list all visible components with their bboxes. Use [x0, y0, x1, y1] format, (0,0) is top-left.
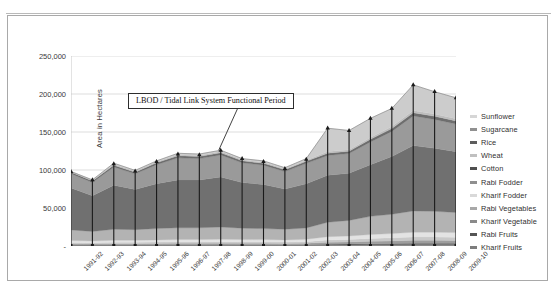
legend-item[interactable]: Rabi Fruits — [470, 228, 556, 241]
legend-swatch-icon — [470, 246, 477, 249]
page-top-rule — [6, 13, 551, 14]
x-tick-label: 2003-04 — [339, 250, 361, 272]
legend-swatch-icon — [470, 220, 477, 223]
x-tick-label: 2004-05 — [360, 250, 382, 272]
x-tick-label: 1992-93 — [103, 250, 125, 272]
plot-area: Area in Hectares -50,000100,000150,00020… — [71, 56, 456, 246]
chart-page: Area in Hectares -50,000100,000150,00020… — [0, 0, 557, 290]
y-tick-label: 50,000 — [43, 204, 66, 213]
legend-item-label: Sugarcane — [481, 125, 518, 134]
legend-swatch-icon — [470, 141, 477, 144]
x-tick-label: 1991-92 — [82, 250, 104, 272]
legend-swatch-icon — [470, 167, 477, 170]
x-tick-label: 1997-98 — [210, 250, 232, 272]
x-tick-label: 1994-95 — [146, 250, 168, 272]
legend-item-label: Rice — [481, 138, 496, 147]
legend-item[interactable]: Rice — [470, 136, 556, 149]
x-tick-label: 1998-99 — [232, 250, 254, 272]
legend-swatch-icon — [470, 181, 477, 184]
x-tick-label: 2005-06 — [382, 250, 404, 272]
x-tick-label: 2007-08 — [424, 250, 446, 272]
legend-item[interactable]: Kharif Fodder — [470, 189, 556, 202]
x-tick-label: 1996-97 — [189, 250, 211, 272]
legend-swatch-icon — [470, 115, 477, 118]
legend-item[interactable]: Kharif Fruits — [470, 241, 556, 254]
x-tick-label: 1995-96 — [168, 250, 190, 272]
legend-swatch-icon — [470, 154, 477, 157]
legend-item[interactable]: Wheat — [470, 149, 556, 162]
legend-item[interactable]: Sugarcane — [470, 123, 556, 136]
y-tick-label: 100,000 — [39, 166, 66, 175]
legend-item[interactable]: Rabi Vegetables — [470, 202, 556, 215]
legend-item-label: Rabi Fodder — [481, 178, 523, 187]
legend-swatch-icon — [470, 233, 477, 236]
legend-item-label: Sunflower — [481, 112, 515, 121]
x-tick-label: 2000-01 — [275, 250, 297, 272]
legend-item-label: Rabi Vegetables — [481, 204, 536, 213]
chart-legend: SunflowerSugarcaneRiceWheatCottonRabi Fo… — [470, 110, 556, 254]
y-tick-label: 200,000 — [39, 90, 66, 99]
stacked-area-svg — [71, 56, 456, 246]
x-tick-label: 2006-07 — [403, 250, 425, 272]
y-axis-title: Area in Hectares — [95, 59, 104, 179]
y-tick-label: - — [64, 242, 67, 251]
y-tick-label: 150,000 — [39, 128, 66, 137]
legend-item[interactable]: Kharif Vegetable — [470, 215, 556, 228]
figure-frame: Area in Hectares -50,000100,000150,00020… — [7, 15, 548, 281]
legend-item-label: Kharif Vegetable — [481, 217, 537, 226]
legend-swatch-icon — [470, 207, 477, 210]
x-tick-label: 2002-03 — [317, 250, 339, 272]
legend-item[interactable]: Cotton — [470, 162, 556, 175]
x-tick-label: 2008-09 — [446, 250, 468, 272]
legend-item[interactable]: Rabi Fodder — [470, 175, 556, 188]
legend-item-label: Rabi Fruits — [481, 230, 518, 239]
x-tick-label: 1999-00 — [253, 250, 275, 272]
legend-item-label: Wheat — [481, 151, 503, 160]
legend-item-label: Cotton — [481, 164, 503, 173]
callout-leader-line — [219, 106, 239, 150]
y-tick-label: 250,000 — [39, 52, 66, 61]
annotation-callout: LBOD / Tidal Link System Functional Peri… — [128, 93, 294, 109]
legend-item-label: Kharif Fruits — [481, 243, 522, 252]
legend-swatch-icon — [470, 194, 477, 197]
x-tick-label: 2001-02 — [296, 250, 318, 272]
x-tick-label: 1993-94 — [125, 250, 147, 272]
legend-swatch-icon — [470, 128, 477, 131]
legend-item[interactable]: Sunflower — [470, 110, 556, 123]
legend-item-label: Kharif Fodder — [481, 191, 527, 200]
